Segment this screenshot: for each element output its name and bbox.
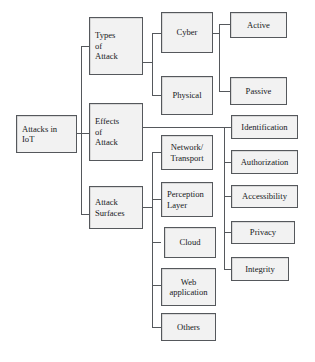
connector-cyber-to-passive [219,91,230,92]
node-label: Integrity [245,264,275,274]
node-label: Attacks in IoT [22,124,57,145]
connector-surfaces-bus [152,152,153,327]
connector-root-to-surfaces [81,214,89,215]
node-others[interactable]: Others [161,313,216,341]
node-passive[interactable]: Passive [230,77,287,105]
node-label: Physical [172,90,201,100]
connector-effects-to-privacy [224,232,231,233]
node-effects-of-attack[interactable]: Effects of Attack [89,103,143,161]
connector-effects-bus [224,127,225,269]
node-label: Others [177,322,200,332]
node-label: Privacy [250,227,276,237]
node-identification[interactable]: Identification [231,115,298,139]
node-perception-layer[interactable]: Perception Layer [161,182,213,217]
node-integrity[interactable]: Integrity [231,257,289,281]
diagram-canvas: Attacks in IoT Types of Attack Effects o… [0,0,315,362]
connector-effects-to-integrity [224,269,231,270]
node-label: Attack Surfaces [95,197,125,218]
node-label: Accessibility [242,191,287,201]
node-label: Cloud [179,237,200,247]
node-label: Identification [241,122,287,132]
node-label: Active [247,20,270,30]
connector-surfaces-to-web [152,285,161,286]
node-types-of-attack[interactable]: Types of Attack [89,17,143,75]
node-accessibility[interactable]: Accessibility [231,185,298,208]
node-label: Network/ Transport [170,142,203,163]
node-label: Cyber [176,27,197,37]
node-authorization[interactable]: Authorization [231,150,298,174]
connector-root-bus [81,46,82,215]
node-active[interactable]: Active [230,12,287,38]
connector-effects-to-identification [224,127,231,128]
connector-cyber-to-active [219,24,230,25]
node-privacy[interactable]: Privacy [231,221,295,244]
connector-effects-to-authorization [224,162,231,163]
connector-root-to-effects [81,133,89,134]
connector-effects-out [142,127,225,128]
node-attack-surfaces[interactable]: Attack Surfaces [89,186,143,229]
connector-surfaces-to-perception [152,199,161,200]
node-physical[interactable]: Physical [161,76,213,115]
node-label: Effects of Attack [95,116,119,147]
connector-effects-to-accessibility [224,196,231,197]
node-label: Perception Layer [167,189,204,210]
node-label: Authorization [241,157,289,167]
connector-root-to-types [81,46,89,47]
node-label: Types of Attack [95,30,118,61]
node-network-transport[interactable]: Network/ Transport [161,135,213,170]
connector-surfaces-to-network [152,152,161,153]
node-cloud[interactable]: Cloud [164,227,216,258]
connector-types-to-physical [152,95,161,96]
node-label: Passive [246,86,272,96]
connector-cyber-bus [219,24,220,91]
node-cyber[interactable]: Cyber [161,12,213,53]
connector-types-to-cyber [152,33,161,34]
node-attacks-in-iot[interactable]: Attacks in IoT [16,115,77,153]
connector-surfaces-to-cloud [152,242,161,243]
connector-surfaces-to-others [152,327,161,328]
node-web-application[interactable]: Web application [161,268,216,306]
node-label: Web application [169,277,207,298]
connector-types-bus [152,33,153,95]
